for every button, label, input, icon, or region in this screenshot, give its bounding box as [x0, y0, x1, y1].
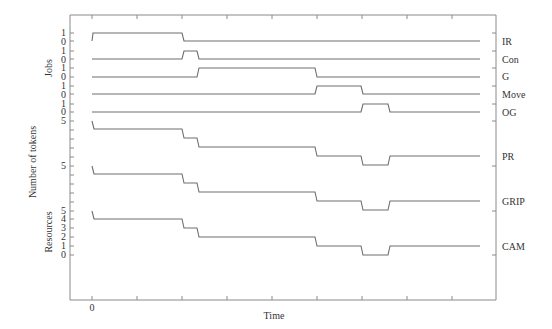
jobs-group-label: Jobs — [43, 59, 54, 77]
tick-label: 5 — [61, 115, 66, 126]
tick-label: 5 — [61, 160, 66, 171]
resources-group-label: Resources — [43, 211, 54, 252]
series-label-pr: PR — [502, 151, 515, 162]
series-line-og — [92, 104, 480, 112]
timing-chart: 1 0 1 0 1 0 1 0 1 0 5 5 5 4 3 2 1 0 IR C… — [0, 0, 552, 329]
y-tick-labels: 1 0 1 0 1 0 1 0 1 0 5 5 5 4 3 2 1 0 — [61, 27, 66, 260]
y-axis-label: Number of tokens — [27, 126, 38, 198]
series-line-cam — [92, 211, 480, 255]
plot-frame — [70, 15, 496, 300]
y-axis-ticks-right — [492, 33, 496, 255]
series-label-cam: CAM — [502, 241, 525, 252]
series-lines — [92, 33, 480, 255]
series-label-move: Move — [502, 89, 526, 100]
x-axis-ticks — [92, 15, 452, 300]
series-line-g — [92, 68, 480, 77]
series-label-og: OG — [502, 107, 516, 118]
series-line-move — [92, 86, 480, 94]
y-axis-ticks-left — [70, 33, 74, 255]
series-label-g: G — [502, 71, 509, 82]
series-label-grip: GRIP — [502, 196, 525, 207]
x-axis-label: Time — [264, 310, 285, 321]
series-line-pr — [92, 121, 480, 165]
series-labels: IR Con G Move OG PR GRIP CAM — [502, 36, 526, 252]
series-line-grip — [92, 166, 480, 210]
series-label-ir: IR — [502, 36, 512, 47]
series-label-con: Con — [502, 54, 519, 65]
x-tick-label-zero: 0 — [90, 302, 95, 313]
series-line-con — [92, 51, 480, 59]
tick-label: 0 — [61, 249, 66, 260]
series-line-ir — [92, 33, 480, 41]
